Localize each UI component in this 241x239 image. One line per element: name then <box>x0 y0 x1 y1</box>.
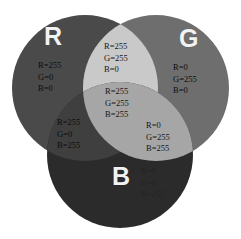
green-only-g-value: G=255 <box>173 74 197 86</box>
green-only-b-value: B=0 <box>173 85 197 97</box>
white-g-value: G=255 <box>105 98 129 110</box>
green-channel-letter: G <box>179 26 198 51</box>
white-b-value: B=255 <box>105 109 129 121</box>
cyan-g-value: G=255 <box>146 132 170 144</box>
green-blue-overlap-label: R=0 G=255 B=255 <box>146 120 170 155</box>
red-green-overlap-label: R=255 G=255 B=0 <box>104 41 128 76</box>
blue-only-region-label: R=0 G=0 B=255 <box>141 166 164 201</box>
magenta-g-value: G=0 <box>57 129 80 141</box>
blue-only-g-value: G=0 <box>141 178 164 190</box>
cyan-r-value: R=0 <box>146 120 170 132</box>
blue-only-r-value: R=0 <box>141 166 164 178</box>
white-r-value: R=255 <box>105 86 129 98</box>
red-blue-overlap-label: R=255 G=0 B=255 <box>57 117 80 152</box>
red-channel-letter: R <box>44 24 62 49</box>
green-only-region-label: R=0 G=255 B=0 <box>173 62 197 97</box>
red-only-r-value: R=255 <box>38 60 61 72</box>
cyan-b-value: B=255 <box>146 143 170 155</box>
yellow-b-value: B=0 <box>104 64 128 76</box>
red-only-b-value: B=0 <box>38 83 61 95</box>
yellow-g-value: G=255 <box>104 53 128 65</box>
green-only-r-value: R=0 <box>173 62 197 74</box>
blue-only-b-value: B=255 <box>141 189 164 201</box>
red-only-region-label: R=255 G=0 B=0 <box>38 60 61 95</box>
magenta-b-value: B=255 <box>57 140 80 152</box>
all-three-overlap-label: R=255 G=255 B=255 <box>105 86 129 121</box>
blue-channel-letter: B <box>112 164 130 189</box>
yellow-r-value: R=255 <box>104 41 128 53</box>
rgb-venn-diagram: R G B R=255 G=0 B=0 R=0 G=255 B=0 R=0 G=… <box>0 0 241 239</box>
red-only-g-value: G=0 <box>38 72 61 84</box>
magenta-r-value: R=255 <box>57 117 80 129</box>
